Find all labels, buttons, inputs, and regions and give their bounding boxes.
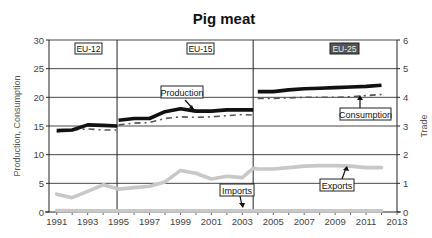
y-axis-right-label: Trade <box>419 114 429 137</box>
x-tick-label: 1993 <box>77 216 98 227</box>
x-tick-label: 2007 <box>294 216 315 227</box>
callout-exports-label: Exports <box>322 181 353 191</box>
region-label-eu15: EU-15 <box>188 44 212 54</box>
series-lines <box>57 85 382 211</box>
callout-consumption: Consumption <box>339 95 392 120</box>
y-axis-right-ticks: 0123456 <box>397 35 408 218</box>
chart-title: Pig meat <box>193 10 256 27</box>
region-label-eu12: EU-12 <box>76 44 100 54</box>
y-tick-label: 0 <box>39 207 44 218</box>
x-tick-label: 2003 <box>232 216 253 227</box>
region-badge-eu12: EU-12 <box>75 43 102 54</box>
pig-meat-chart: Pig meat 051015202530 0123456 1991199319… <box>0 0 432 238</box>
callout-imports-label: Imports <box>222 186 253 196</box>
x-tick-label: 1991 <box>46 216 67 227</box>
x-tick-label: 2001 <box>201 216 222 227</box>
y2-tick-label: 3 <box>403 121 408 132</box>
x-tick-label: 2011 <box>356 216 376 227</box>
x-tick-label: 2005 <box>263 216 284 227</box>
y2-tick-label: 1 <box>403 178 408 189</box>
y2-tick-label: 2 <box>403 149 408 160</box>
y-tick-label: 20 <box>33 92 44 103</box>
callout-production: Production <box>160 86 203 110</box>
y-tick-label: 30 <box>33 35 44 46</box>
y2-tick-label: 6 <box>403 35 408 46</box>
y-tick-label: 25 <box>33 63 44 74</box>
y-tick-label: 10 <box>33 149 44 160</box>
region-label-eu25: EU-25 <box>332 44 356 54</box>
y2-tick-label: 4 <box>403 92 408 103</box>
x-tick-label: 2013 <box>386 216 407 227</box>
callout-exports: Exports <box>320 166 354 191</box>
series-consumption-line <box>258 95 382 99</box>
y-axis-left-label: Production, Consumption <box>12 75 22 176</box>
callout-production-label: Production <box>160 88 203 98</box>
y-axis-left-ticks: 051015202530 <box>33 35 49 218</box>
callout-consumption-label: Consumption <box>339 110 392 120</box>
x-tick-label: 1995 <box>108 216 129 227</box>
series-production-line <box>258 85 382 91</box>
x-axis-ticks: 1991199319951997199920012003200520072009… <box>46 212 407 227</box>
y-tick-label: 5 <box>39 178 44 189</box>
y2-tick-label: 5 <box>403 63 408 74</box>
region-badge-eu15: EU-15 <box>187 43 214 54</box>
x-tick-label: 1997 <box>139 216 160 227</box>
x-tick-label: 2009 <box>325 216 346 227</box>
y-tick-label: 15 <box>33 121 44 132</box>
region-badge-eu25: EU-25 <box>330 43 359 54</box>
callout-imports: Imports <box>220 184 254 208</box>
x-tick-label: 1999 <box>170 216 191 227</box>
